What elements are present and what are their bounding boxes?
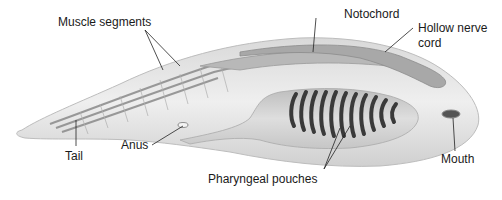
mouth-opening	[442, 110, 460, 118]
label-hollow-nerve-cord-line2: cord	[418, 36, 441, 50]
label-notochord: Notochord	[344, 7, 399, 21]
label-pharyngeal-pouches: Pharyngeal pouches	[208, 172, 317, 186]
label-anus: Anus	[121, 138, 148, 152]
label-tail: Tail	[65, 149, 83, 163]
anus-opening	[178, 123, 188, 128]
label-hollow-nerve-cord-line1: Hollow nerve	[418, 21, 487, 35]
label-mouth: Mouth	[441, 152, 474, 166]
label-muscle-segments: Muscle segments	[58, 15, 151, 29]
